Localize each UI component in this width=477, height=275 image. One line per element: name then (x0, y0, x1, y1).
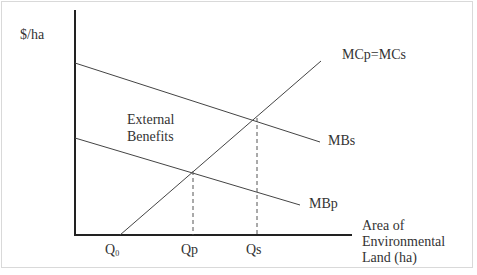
mbp-curve-label: MBp (309, 196, 338, 211)
qp-tick-label: Qp (181, 242, 198, 257)
q0-subscript: 0 (115, 249, 119, 258)
mbp-curve (75, 138, 300, 205)
mc-curve-label: MCp=MCs (342, 47, 406, 62)
x-axis-label-line3: Land (ha) (362, 250, 417, 265)
y-axis-label: $/ha (20, 27, 44, 42)
q0-tick-label: Q0 (105, 242, 119, 261)
external-benefits-label-line2: Benefits (127, 129, 174, 144)
mbs-curve-label: MBs (328, 133, 355, 148)
q0-base: Q (105, 242, 115, 257)
x-axis-label-line2: Environmental (362, 234, 445, 249)
qs-tick-label: Qs (246, 242, 262, 257)
mbs-curve (75, 63, 320, 142)
external-benefits-label-line1: External (127, 112, 174, 127)
x-axis-label-line1: Area of (362, 218, 404, 233)
